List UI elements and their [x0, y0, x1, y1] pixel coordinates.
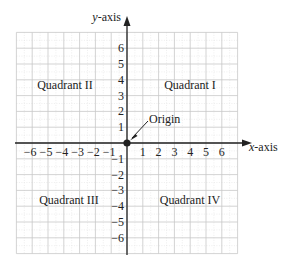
x-tick-label: 3	[171, 145, 177, 159]
y-tick-label: 6	[118, 41, 124, 55]
y-tick-label: −4	[111, 199, 124, 213]
quadrant-iii-label: Quadrant III	[39, 193, 99, 207]
y-tick-label: −3	[111, 183, 124, 197]
y-tick-label: −5	[111, 215, 124, 229]
quadrant-i-label: Quadrant I	[164, 78, 216, 92]
x-tick-label: −2	[87, 145, 100, 159]
x-tick-labels: −6−5−4−3−2−1123456	[24, 145, 225, 159]
y-tick-label: 3	[118, 89, 124, 103]
y-tick-label: −6	[111, 231, 124, 245]
y-tick-label: 2	[118, 104, 124, 118]
x-tick-label: −6	[24, 145, 37, 159]
origin-label: Origin	[149, 112, 180, 126]
origin-pointer-arrow-icon	[130, 134, 138, 141]
x-tick-label: 4	[187, 145, 193, 159]
x-tick-label: 5	[203, 145, 209, 159]
y-tick-label: −1	[111, 152, 124, 166]
x-axis-label: x-axis	[248, 140, 278, 154]
x-tick-label: 2	[156, 145, 162, 159]
origin-point	[123, 139, 130, 146]
x-tick-label: 6	[219, 145, 225, 159]
y-tick-label: −2	[111, 168, 124, 182]
y-tick-label: 1	[118, 120, 124, 134]
y-axis-arrow-icon	[124, 16, 131, 26]
quadrant-iv-label: Quadrant IV	[160, 193, 221, 207]
coordinate-plane-diagram: y-axis x-axis −6−5−4−3−2−1123456 654321−…	[0, 0, 287, 265]
quadrant-ii-label: Quadrant II	[37, 78, 93, 92]
x-tick-label: −4	[55, 145, 68, 159]
y-tick-label: 5	[118, 57, 124, 71]
y-axis-label: y-axis	[91, 10, 121, 24]
y-tick-label: 4	[118, 73, 124, 87]
x-tick-label: 1	[140, 145, 146, 159]
x-tick-label: −5	[40, 145, 53, 159]
x-tick-label: −3	[71, 145, 84, 159]
